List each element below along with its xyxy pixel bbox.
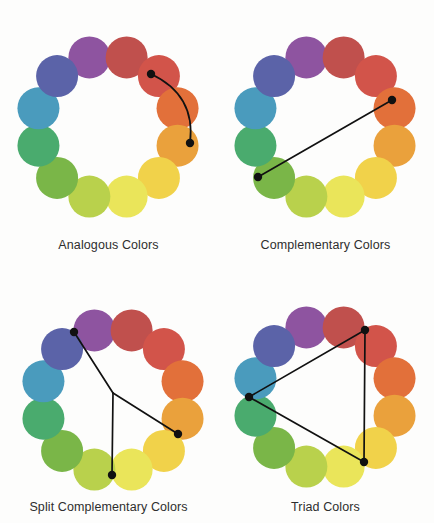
harmony-node-dot[interactable] (70, 328, 78, 336)
panel-caption-triad: Triad Colors (217, 500, 434, 515)
color-swatch[interactable] (22, 398, 64, 440)
harmony-node-dot[interactable] (360, 458, 368, 466)
color-swatch[interactable] (323, 446, 365, 488)
harmony-node-dot[interactable] (174, 430, 182, 438)
wheel-svg-triad (217, 261, 434, 493)
wheel-svg-analogous (0, 0, 217, 232)
panel-analogous: Analogous Colors (0, 0, 217, 262)
harmony-connector-branch (112, 393, 113, 475)
color-swatch[interactable] (234, 125, 276, 167)
color-harmony-figure: Analogous ColorsComplementary ColorsSpli… (0, 0, 434, 523)
harmony-node-dot[interactable] (245, 393, 253, 401)
color-swatch[interactable] (374, 357, 416, 399)
color-swatch[interactable] (253, 325, 295, 367)
panel-triad: Triad Colors (217, 261, 434, 523)
color-swatch[interactable] (111, 449, 153, 491)
harmony-node-dot[interactable] (186, 139, 194, 147)
panel-complementary: Complementary Colors (217, 0, 434, 262)
wheel-svg-complementary (217, 0, 434, 232)
harmony-node-dot[interactable] (108, 471, 116, 479)
color-wheel-split-complementary (0, 261, 217, 493)
color-swatch[interactable] (36, 55, 78, 97)
color-swatch[interactable] (17, 125, 59, 167)
color-wheel-triad (217, 261, 434, 493)
harmony-node-dot[interactable] (147, 70, 155, 78)
color-swatch[interactable] (162, 360, 204, 402)
color-wheel-analogous (0, 0, 217, 232)
color-wheel-complementary (217, 0, 434, 232)
harmony-node-dot[interactable] (388, 96, 396, 104)
harmony-node-dot[interactable] (361, 326, 369, 334)
panel-caption-split-complementary: Split Complementary Colors (0, 500, 217, 515)
panel-caption-analogous: Analogous Colors (0, 238, 217, 253)
color-swatch[interactable] (106, 176, 148, 218)
harmony-node-dot[interactable] (254, 173, 262, 181)
color-swatch[interactable] (323, 176, 365, 218)
color-swatch[interactable] (374, 87, 416, 129)
panel-split-complementary: Split Complementary Colors (0, 261, 217, 523)
panel-caption-complementary: Complementary Colors (217, 238, 434, 253)
color-swatch[interactable] (253, 55, 295, 97)
wheel-svg-split-complementary (0, 261, 217, 493)
